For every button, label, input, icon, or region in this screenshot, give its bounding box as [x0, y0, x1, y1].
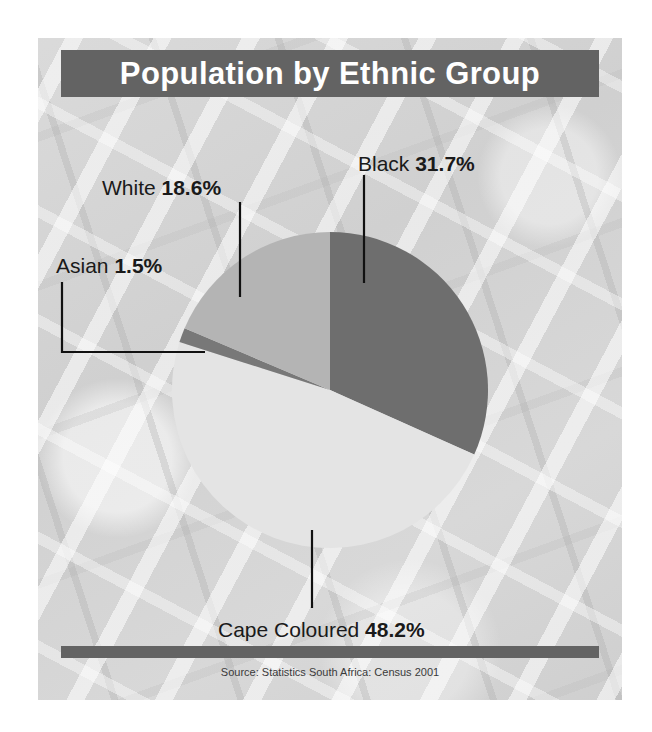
slice-label-cape-coloured-percent: 48.2% [365, 618, 425, 641]
leader-line-asian [62, 282, 205, 352]
pie-slice-asian [179, 328, 330, 390]
slice-label-black: Black 31.7% [358, 152, 475, 176]
pie-slice-cape-coloured [172, 342, 474, 548]
chart-title: Population by Ethnic Group [120, 56, 540, 92]
source-note: Source: Statistics South Africa: Census … [38, 666, 622, 678]
slice-label-asian-name: Asian [56, 254, 114, 277]
slice-label-cape-coloured: Cape Coloured 48.2% [218, 618, 425, 642]
pie-chart [38, 38, 622, 700]
slice-label-cape-coloured-name: Cape Coloured [218, 618, 365, 641]
slice-label-white-percent: 18.6% [162, 176, 222, 199]
slice-label-black-name: Black [358, 152, 415, 175]
chart-title-bar: Population by Ethnic Group [61, 50, 599, 97]
chart-figure: Population by Ethnic Group Black 31.7% W… [38, 38, 622, 700]
slice-label-asian-percent: 1.5% [114, 254, 162, 277]
slice-label-white: White 18.6% [102, 176, 221, 200]
bottom-divider-bar [61, 646, 599, 658]
pie-slice-white [185, 232, 330, 390]
pie-slice-black [330, 232, 488, 455]
slice-label-white-name: White [102, 176, 162, 199]
pie-svg [38, 38, 622, 700]
map-background-texture [38, 38, 622, 700]
slice-label-black-percent: 31.7% [415, 152, 475, 175]
slice-label-asian: Asian 1.5% [56, 254, 162, 278]
